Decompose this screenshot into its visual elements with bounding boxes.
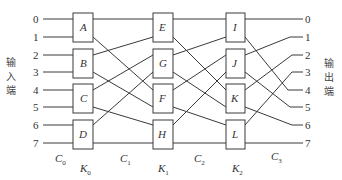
switch-j: J: [226, 49, 245, 78]
output-port-7: 7: [305, 137, 311, 149]
label-c3: C3: [271, 150, 282, 165]
switch-l: L: [226, 120, 245, 149]
label-k1: K1: [157, 162, 169, 177]
input-port-5: 5: [33, 101, 39, 113]
svg-text:K: K: [230, 92, 239, 104]
svg-text:输: 输: [324, 57, 334, 69]
switch-i: I: [226, 13, 245, 42]
label-c2: C2: [194, 152, 205, 167]
svg-text:端: 端: [324, 85, 334, 97]
svg-text:B: B: [80, 57, 87, 69]
switch-h: H: [153, 120, 173, 149]
switch-c: C: [73, 84, 93, 113]
input-port-0: 0: [33, 13, 39, 25]
stage-labels: K0 K1 K2: [79, 162, 243, 177]
svg-text:H: H: [157, 128, 167, 140]
switch-f: F: [153, 84, 173, 113]
svg-text:E: E: [158, 21, 166, 33]
label-k2: K2: [231, 162, 243, 177]
network-svg: 输 入 端 输 出 端 0 1 2 3 4 5 6 7: [0, 0, 342, 180]
svg-text:C: C: [80, 92, 88, 104]
svg-text:端: 端: [6, 84, 16, 96]
output-port-2: 2: [305, 49, 311, 61]
input-port-labels: 0 1 2 3 4 5 6 7: [33, 13, 39, 149]
svg-text:F: F: [158, 92, 166, 104]
svg-text:输: 输: [6, 56, 16, 68]
connection-c2-wires: [173, 19, 226, 143]
input-port-6: 6: [33, 119, 39, 131]
output-port-labels: 0 1 2 3 4 5 6 7: [305, 13, 311, 149]
label-k0: K0: [79, 162, 91, 177]
input-port-1: 1: [33, 31, 39, 43]
svg-text:A: A: [79, 21, 87, 33]
output-side-label: 输 出 端: [324, 57, 334, 97]
output-port-6: 6: [305, 119, 311, 131]
svg-text:入: 入: [6, 71, 16, 82]
output-port-0: 0: [305, 13, 311, 25]
connection-labels: C0 C1 C2 C3: [55, 150, 282, 167]
connection-c0-wires: [43, 19, 73, 143]
svg-text:出: 出: [324, 71, 334, 83]
switch-d: D: [73, 120, 93, 149]
label-c0: C0: [55, 152, 66, 167]
switch-k: K: [226, 84, 245, 113]
stage-k0: A B C D: [73, 13, 93, 149]
switch-g: G: [153, 49, 173, 78]
stage-k1: E G F H: [153, 13, 173, 149]
output-port-4: 4: [305, 84, 311, 96]
svg-text:G: G: [159, 57, 167, 69]
connection-c1-wires: [93, 19, 153, 143]
connection-c3-wires: [245, 19, 303, 143]
input-port-2: 2: [33, 49, 39, 61]
input-port-3: 3: [33, 66, 39, 78]
omega-network-diagram: 输 入 端 输 出 端 0 1 2 3 4 5 6 7: [0, 0, 342, 180]
svg-text:D: D: [78, 128, 87, 140]
output-port-5: 5: [305, 101, 311, 113]
switch-b: B: [73, 49, 93, 78]
switch-a: A: [73, 13, 93, 42]
input-port-4: 4: [33, 84, 39, 96]
stage-k2: I J K L: [226, 13, 245, 149]
input-side-label: 输 入 端: [6, 56, 16, 96]
svg-text:L: L: [231, 128, 238, 140]
label-c1: C1: [120, 152, 131, 167]
switch-e: E: [153, 13, 173, 42]
input-port-7: 7: [33, 137, 39, 149]
output-port-3: 3: [305, 66, 311, 78]
output-port-1: 1: [305, 31, 311, 43]
